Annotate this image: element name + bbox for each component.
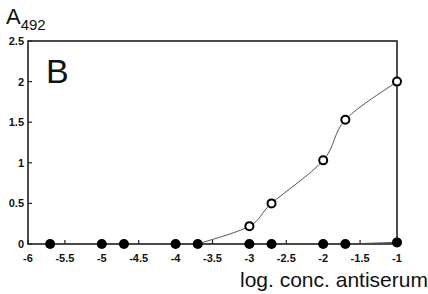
x-tick-label: -1.5 — [351, 252, 370, 264]
x-tick-label: -4.5 — [129, 252, 148, 264]
y-tick-label: 2 — [18, 76, 24, 88]
open-series-curve — [198, 82, 397, 244]
open-circle-marker — [341, 116, 349, 124]
y-tick-label: 2.5 — [9, 35, 24, 47]
x-tick-label: -4 — [171, 252, 182, 264]
open-circle-marker — [268, 199, 276, 207]
x-tick-label: -3 — [245, 252, 255, 264]
y-axis-label-subscript: 492 — [21, 16, 46, 33]
filled-circle-marker — [119, 239, 129, 249]
x-tick-label: -2 — [318, 252, 328, 264]
filled-circle-marker — [193, 239, 203, 249]
open-circle-marker — [393, 78, 401, 86]
plot-frame — [28, 41, 397, 244]
filled-circle-marker — [45, 239, 55, 249]
filled-circle-marker — [318, 239, 328, 249]
y-tick-label: 0 — [18, 238, 24, 250]
y-axis-label: A492 — [6, 4, 46, 33]
y-tick-label: 1.5 — [9, 116, 24, 128]
x-tick-label: -5.5 — [55, 252, 74, 264]
open-circle-marker — [319, 156, 327, 164]
filled-circle-marker — [244, 239, 254, 249]
x-tick-label: -3.5 — [203, 252, 222, 264]
x-tick-label: -1 — [392, 252, 402, 264]
filled-circle-marker — [392, 237, 402, 247]
x-tick-label: -2.5 — [277, 252, 296, 264]
x-axis-label: log. conc. antiserum — [240, 268, 428, 292]
filled-circle-marker — [97, 239, 107, 249]
open-circle-marker — [245, 222, 253, 230]
y-tick-label: 1 — [18, 157, 24, 169]
filled-circle-marker — [340, 239, 350, 249]
y-tick-label: 0.5 — [9, 197, 24, 209]
filled-circle-marker — [171, 239, 181, 249]
y-axis-label-main: A — [6, 4, 21, 29]
filled-circle-marker — [267, 239, 277, 249]
x-tick-label: -5 — [97, 252, 107, 264]
panel-label: B — [46, 52, 69, 91]
x-tick-label: -6 — [23, 252, 33, 264]
